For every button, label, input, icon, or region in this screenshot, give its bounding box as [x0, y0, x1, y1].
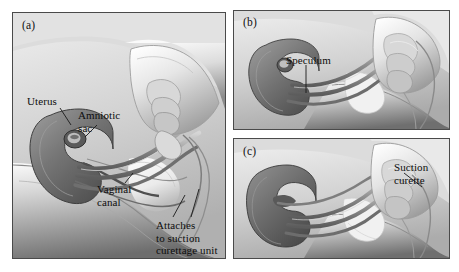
- callout-vaginal-canal: Vaginal canal: [97, 183, 157, 208]
- callout-speculum: Speculum: [286, 54, 331, 67]
- panel-c-illustration: [234, 139, 449, 258]
- figure-suction-curettage: (a) Uterus Amniotic sac Vaginal canal At…: [0, 0, 459, 272]
- panel-c: (c) Suction curette: [233, 138, 450, 259]
- panel-b-label: (b): [243, 16, 257, 28]
- callout-attaches-line-1: Attaches: [156, 219, 226, 232]
- callout-vaginal-line-2: canal: [97, 196, 157, 209]
- callout-curette-line-2: curette: [394, 174, 448, 187]
- callout-attaches-line-2: to suction: [156, 232, 226, 245]
- callout-amniotic-sac: Amniotic sac: [78, 109, 140, 134]
- callout-suction-curette: Suction curette: [394, 161, 448, 186]
- callout-attaches-suction-unit: Attaches to suction curettage unit: [156, 219, 226, 257]
- panel-c-label: (c): [243, 145, 256, 157]
- panel-a: (a) Uterus Amniotic sac Vaginal canal At…: [12, 12, 226, 259]
- callout-amniotic-line-2: sac: [78, 122, 140, 135]
- panel-a-label: (a): [22, 19, 35, 31]
- panel-b: (b) Speculum: [233, 10, 450, 130]
- callout-uterus: Uterus: [27, 95, 57, 108]
- callout-amniotic-line-1: Amniotic: [78, 109, 140, 122]
- callout-curette-line-1: Suction: [394, 161, 448, 174]
- callout-vaginal-line-1: Vaginal: [97, 183, 157, 196]
- callout-attaches-line-3: curettage unit: [156, 244, 226, 257]
- panel-b-illustration: [234, 11, 449, 129]
